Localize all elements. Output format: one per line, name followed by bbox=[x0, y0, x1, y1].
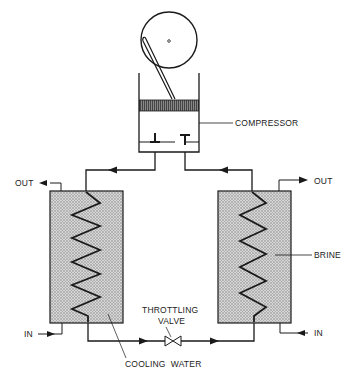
arrow-liquid-1 bbox=[139, 338, 148, 345]
refrigeration-diagram: COMPRESSOR THROTTLING VALVE OUT IN COOLI… bbox=[0, 0, 351, 377]
arrow-discharge bbox=[108, 167, 117, 174]
evaporator: OUT IN BRINE bbox=[218, 176, 341, 338]
valve-bowtie-icon bbox=[165, 336, 173, 346]
arrow-liquid-2 bbox=[210, 338, 219, 345]
condenser-out-label: OUT bbox=[15, 178, 34, 188]
throttling-valve: THROTTLING VALVE bbox=[142, 305, 198, 346]
condenser-in-label: IN bbox=[24, 329, 33, 339]
valve-leader bbox=[166, 327, 171, 337]
suction-valve bbox=[150, 133, 160, 142]
cylinder-walls bbox=[139, 73, 199, 152]
brine-label: BRINE bbox=[314, 250, 341, 260]
evaporator-in-label: IN bbox=[314, 328, 323, 338]
condenser: OUT IN bbox=[15, 178, 126, 358]
arrow-water-in bbox=[47, 331, 55, 337]
throttling-label-1: THROTTLING bbox=[142, 305, 198, 315]
compressor: COMPRESSOR bbox=[139, 12, 298, 152]
evaporator-out-label: OUT bbox=[314, 176, 333, 186]
discharge-line bbox=[86, 152, 155, 192]
suction-line bbox=[185, 152, 252, 192]
arrow-brine-out bbox=[299, 177, 308, 184]
cooling-water-label: COOLING WATER bbox=[125, 359, 201, 369]
piston bbox=[140, 100, 199, 111]
arrow-brine-in bbox=[297, 330, 305, 336]
arrow-suction bbox=[219, 167, 228, 174]
throttling-label-2: VALVE bbox=[158, 316, 185, 326]
condenser-water-out bbox=[50, 183, 61, 191]
arrow-water-out bbox=[39, 180, 47, 186]
brine-out bbox=[279, 180, 299, 191]
discharge-valve bbox=[180, 135, 190, 145]
compressor-label: COMPRESSOR bbox=[235, 118, 298, 128]
evaporator-shell bbox=[218, 191, 291, 323]
